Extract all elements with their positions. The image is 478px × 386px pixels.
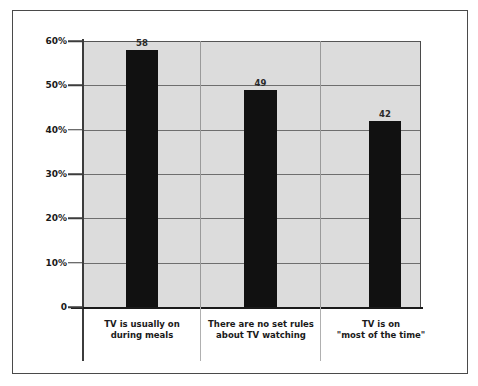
y-tick-label-10: 10% [27, 258, 67, 268]
y-tick-mark-30 [68, 173, 83, 175]
category-separator-1 [200, 41, 201, 307]
x-axis-line [71, 307, 423, 309]
category-label-2: There are no set rules about TV watching [201, 319, 321, 342]
chart-frame: 60% 50% 40% 30% 20% 10% 0 58 49 42 TV is… [12, 10, 468, 374]
y-tick-label-30: 30% [27, 169, 67, 179]
bar-tv-on-most-of-the-time[interactable] [369, 121, 401, 307]
category-label-2-line-2: about TV watching [201, 330, 321, 341]
y-tick-label-50: 50% [27, 80, 67, 90]
y-tick-mark-40 [68, 129, 83, 131]
y-tick-mark-50 [68, 85, 83, 87]
category-separator-2 [320, 41, 321, 307]
y-axis-line [82, 39, 84, 361]
category-label-3-line-2: "most of the time" [321, 330, 441, 341]
bar-tv-usually-on-during-meals[interactable] [126, 50, 158, 307]
category-label-3: TV is on "most of the time" [321, 319, 441, 342]
bar-value-label-1: 58 [122, 38, 162, 48]
bar-value-label-2: 49 [241, 78, 281, 88]
bar-value-label-3: 42 [365, 109, 405, 119]
y-axis-tick-labels: 60% 50% 40% 30% 20% 10% 0 [27, 11, 67, 373]
y-tick-label-40: 40% [27, 125, 67, 135]
category-label-2-line-1: There are no set rules [201, 319, 321, 330]
y-tick-mark-20 [68, 218, 83, 220]
category-label-3-line-1: TV is on [321, 319, 441, 330]
y-tick-label-20: 20% [27, 213, 67, 223]
y-tick-mark-60 [68, 40, 83, 42]
category-label-1-line-1: TV is usually on [82, 319, 202, 330]
y-tick-mark-0 [68, 306, 83, 308]
category-label-1: TV is usually on during meals [82, 319, 202, 342]
bar-no-set-rules-about-tv-watching[interactable] [244, 90, 277, 307]
y-tick-mark-10 [68, 262, 83, 264]
plot-right-border [420, 41, 422, 307]
category-label-1-line-2: during meals [82, 330, 202, 341]
y-tick-label-60: 60% [27, 36, 67, 46]
y-tick-label-0: 0 [27, 302, 67, 312]
